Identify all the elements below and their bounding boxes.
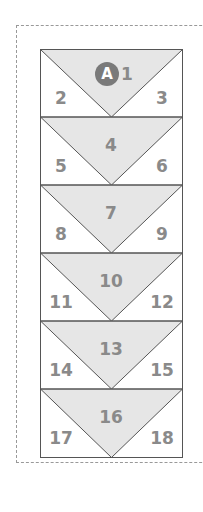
piece-label: 3 — [156, 90, 168, 107]
piece-label: 2 — [55, 90, 67, 107]
piece-label: 7 — [105, 205, 117, 222]
pattern-grid — [40, 49, 183, 458]
piece-label: 11 — [49, 294, 73, 311]
piece-label: 1 — [121, 66, 133, 83]
section-badge: A — [95, 62, 119, 86]
piece-label: 5 — [55, 158, 67, 175]
piece-label: 17 — [49, 430, 73, 447]
piece-label: 15 — [150, 362, 174, 379]
piece-label: 9 — [156, 226, 168, 243]
flying-geese-pattern: A 1 2 3 4 5 6 7 8 9 10 11 12 13 14 15 16… — [40, 49, 183, 458]
piece-label: 13 — [99, 341, 123, 358]
piece-label: 6 — [156, 158, 168, 175]
piece-label: 14 — [49, 362, 73, 379]
piece-label: 4 — [105, 137, 117, 154]
piece-label: 12 — [150, 294, 174, 311]
piece-label: 10 — [99, 273, 123, 290]
piece-label: 8 — [55, 226, 67, 243]
piece-label: 18 — [150, 430, 174, 447]
piece-label: 16 — [99, 409, 123, 426]
